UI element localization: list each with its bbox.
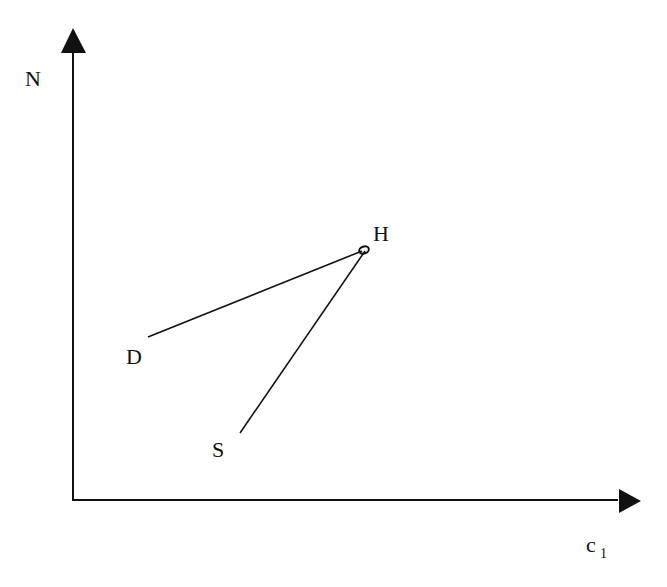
point-d-label: D: [126, 344, 142, 369]
x-axis-arrowhead-icon: [619, 489, 641, 513]
edge-d-h: [148, 251, 362, 337]
x-axis-label: c: [586, 532, 596, 557]
point-s-label: S: [212, 437, 224, 462]
diagram-canvas: N c 1 H D S: [0, 0, 667, 587]
point-h-label: H: [373, 221, 389, 246]
x-axis-label-subscript: 1: [600, 546, 607, 561]
y-axis-label: N: [25, 66, 41, 91]
y-axis-arrowhead-icon: [61, 28, 86, 53]
point-h-marker: [358, 245, 370, 255]
edge-s-h: [240, 251, 365, 433]
